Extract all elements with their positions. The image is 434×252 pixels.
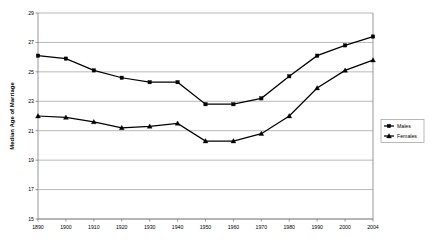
y-tick-label: 15 — [28, 216, 34, 222]
x-tick-label: 1940 — [172, 224, 184, 230]
y-tick-label: 27 — [28, 39, 34, 45]
x-tick-label: 1900 — [60, 224, 72, 230]
legend-item-females[interactable]: Females — [384, 133, 417, 139]
y-tick-label: 23 — [28, 98, 34, 104]
data-point-marker-square — [148, 80, 151, 83]
x-tick-label: 2000 — [339, 224, 351, 230]
data-point-marker-square — [315, 54, 318, 57]
median-age-of-marriage-line-chart: 1517192123252729 18901900191019201930194… — [0, 0, 434, 252]
x-tick-label: 1970 — [256, 224, 268, 230]
data-point-marker-square — [260, 97, 263, 100]
data-point-marker-square — [92, 69, 95, 72]
x-tick-label: 1990 — [311, 224, 323, 230]
y-axis-title-text: Median Age of Marriage — [9, 82, 15, 150]
plot-frame — [38, 13, 373, 219]
series-line-males — [38, 37, 373, 105]
y-tick-label: 21 — [28, 128, 34, 134]
y-tick-label: 17 — [28, 186, 34, 192]
chart-container: 1517192123252729 18901900191019201930194… — [0, 0, 434, 252]
x-tick-label: 1890 — [32, 224, 44, 230]
x-tick-label: 1910 — [88, 224, 100, 230]
x-tick-label: 1930 — [144, 224, 156, 230]
x-tick-label: 1950 — [200, 224, 212, 230]
data-series-group — [36, 35, 376, 143]
data-point-marker-square — [288, 75, 291, 78]
data-point-marker-square — [232, 103, 235, 106]
chart-legend[interactable]: MalesFemales — [381, 120, 424, 143]
y-tick-label: 29 — [28, 10, 34, 16]
legend-item-label: Males — [397, 123, 411, 129]
series-line-females — [38, 60, 373, 141]
x-tick-label: 2004 — [367, 224, 379, 230]
data-point-marker-square — [176, 80, 179, 83]
data-point-marker-square — [36, 54, 39, 57]
series-females — [36, 58, 376, 143]
data-point-marker-square — [371, 35, 374, 38]
x-tick-label: 1920 — [116, 224, 128, 230]
x-axis-tick-labels: 1890190019101920193019401950196019701980… — [32, 224, 379, 230]
data-point-marker-square — [64, 57, 67, 60]
gridlines-group — [38, 13, 373, 219]
y-axis-title: Median Age of Marriage — [9, 82, 15, 150]
data-point-marker-square — [343, 44, 346, 47]
x-tick-label: 1980 — [283, 224, 295, 230]
legend-item-label: Females — [397, 133, 417, 139]
x-tick-label: 1960 — [228, 224, 240, 230]
data-point-marker-triangle — [371, 58, 376, 62]
data-point-marker-square — [204, 103, 207, 106]
data-point-marker-square — [387, 124, 390, 127]
y-tick-label: 25 — [28, 69, 34, 75]
y-tick-label: 19 — [28, 157, 34, 163]
series-males — [36, 35, 374, 106]
data-point-marker-square — [120, 76, 123, 79]
